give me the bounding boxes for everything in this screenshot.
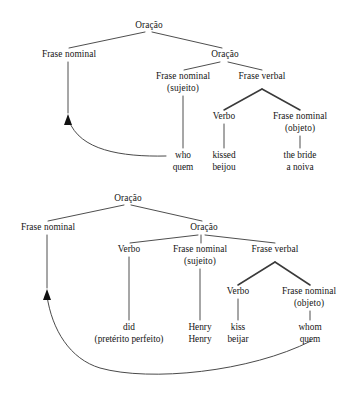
bottom-tree-branches [43, 205, 311, 374]
top-left-frase-nominal: Frase nominal [42, 49, 96, 60]
branch-root-to-left-np-b [48, 205, 124, 221]
top-verbo: Verbo [213, 111, 236, 122]
bottom-terminal-did-word: did [123, 322, 135, 332]
branch-root-to-left-np [69, 32, 145, 48]
top-subject-np-role: (sujeito) [156, 83, 210, 95]
bottom-terminal-did-gloss: (pretérito perfeito) [95, 334, 164, 346]
bottom-terminal-henry: Henry Henry [188, 322, 211, 345]
bottom-root-oracao: Oração [114, 193, 141, 204]
top-embedded-oracao: Oração [211, 49, 238, 60]
top-terminal-kissed: kissed beijou [212, 150, 235, 173]
top-object-np-label: Frase nominal [273, 111, 327, 121]
top-object-np: Frase nominal (objeto) [273, 111, 327, 134]
top-tree-branches [64, 32, 300, 156]
top-terminal-the-bride: the bride a noiva [284, 150, 317, 173]
branch-vp-to-object-np-b [275, 262, 310, 285]
top-terminal-who: who quem [173, 150, 194, 173]
bottom-terminal-did: did (pretérito perfeito) [95, 322, 164, 345]
bottom-subject-np: Frase nominal (sujeito) [173, 244, 227, 267]
bottom-subject-np-role: (sujeito) [173, 256, 227, 268]
branch-root-to-embedded-clause [152, 32, 222, 48]
bottom-terminal-whom: whom quem [298, 322, 321, 345]
bottom-left-frase-nominal: Frase nominal [21, 222, 75, 233]
top-terminal-kissed-gloss: beijou [212, 162, 235, 174]
bottom-terminal-henry-word: Henry [188, 322, 211, 332]
top-terminal-who-gloss: quem [173, 162, 194, 174]
top-object-np-role: (objeto) [273, 123, 327, 135]
movement-arc-bottom [47, 296, 311, 374]
movement-arrowhead-bottom [43, 289, 51, 300]
branch-vp-to-object-np [262, 89, 300, 110]
top-subject-np-label: Frase nominal [156, 71, 210, 81]
top-frase-verbal: Frase verbal [239, 71, 286, 82]
bottom-embedded-oracao: Oração [190, 222, 217, 233]
branch-vp-to-verb-b [238, 262, 275, 285]
top-terminal-the-bride-word: the bride [284, 150, 317, 160]
branch-clause-to-vp-b [205, 235, 275, 243]
bottom-object-np: Frase nominal (objeto) [282, 286, 336, 309]
top-subject-np: Frase nominal (sujeito) [156, 71, 210, 94]
branch-clause-to-aux-verb [130, 235, 198, 243]
bottom-object-np-label: Frase nominal [282, 286, 336, 296]
bottom-terminal-henry-gloss: Henry [188, 334, 211, 346]
bottom-terminal-whom-gloss: quem [298, 334, 321, 346]
bottom-aux-verbo: Verbo [118, 244, 141, 255]
branch-clause-to-subject-np [184, 62, 220, 70]
movement-arc-top [69, 121, 166, 156]
bottom-frase-verbal: Frase verbal [252, 244, 299, 255]
syntax-tree-figure: Oração Frase nominal Oração Frase nomina… [0, 0, 362, 396]
branch-clause-to-vp [228, 62, 262, 70]
top-terminal-the-bride-gloss: a noiva [284, 162, 317, 174]
branch-vp-to-verb [224, 89, 262, 110]
bottom-terminal-kiss-word: kiss [231, 322, 245, 332]
top-terminal-kissed-word: kissed [212, 150, 235, 160]
movement-arrowhead-top [64, 114, 72, 125]
bottom-verbo: Verbo [227, 286, 250, 297]
bottom-object-np-role: (objeto) [282, 298, 336, 310]
bottom-terminal-whom-word: whom [298, 322, 321, 332]
bottom-terminal-kiss-gloss: beijar [227, 334, 248, 346]
branch-root-to-embedded-clause-b [131, 205, 202, 221]
top-root-oracao: Oração [135, 20, 162, 31]
top-terminal-who-word: who [175, 150, 191, 160]
bottom-terminal-kiss: kiss beijar [227, 322, 248, 345]
bottom-subject-np-label: Frase nominal [173, 244, 227, 254]
